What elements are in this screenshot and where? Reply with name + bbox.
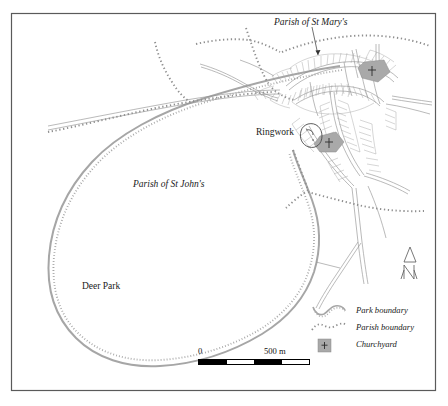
legend-item-parish-boundary: Parish boundary [310, 320, 434, 337]
scale-seg-3 [254, 360, 282, 364]
scale-bar-labels: 0 500 m [198, 346, 310, 358]
scale-label-max: 500 m [264, 346, 286, 356]
road-network [48, 44, 432, 309]
scale-label-min: 0 [198, 346, 202, 356]
legend-item-churchyard: Churchyard [310, 337, 434, 354]
label-parish-st-marys: Parish of St Mary's [274, 17, 348, 27]
park-boundary-line [48, 66, 342, 366]
label-deer-park: Deer Park [82, 281, 120, 291]
legend-label-park-boundary: Park boundary [356, 305, 408, 315]
scale-seg-1 [199, 360, 227, 364]
churchyard-lower [314, 132, 344, 152]
map-legend: Park boundary Parish boundary Churchyard [310, 303, 434, 354]
parish-boundary-lines [48, 28, 430, 211]
parish-boundary-symbol [310, 320, 348, 336]
legend-item-park-boundary: Park boundary [310, 303, 434, 320]
legend-label-churchyard: Churchyard [356, 339, 397, 349]
label-ringwork: Ringwork [256, 127, 294, 137]
legend-label-parish-boundary: Parish boundary [356, 322, 414, 332]
scale-bar: 0 500 m [198, 346, 310, 358]
scale-bar-graphic [198, 359, 310, 365]
historic-town-plan-map: .frame{fill:none;stroke:#5a5a5a;stroke-w… [0, 0, 448, 406]
churchyard-symbol [310, 337, 348, 353]
park-boundary-symbol [310, 303, 348, 319]
north-arrow [401, 247, 417, 279]
label-parish-st-johns: Parish of St John's [133, 179, 204, 189]
